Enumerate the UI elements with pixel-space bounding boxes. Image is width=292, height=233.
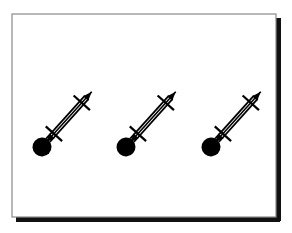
figure-root: Three identical pendulum-rod schematic s… [0, 0, 292, 233]
diagram-canvas [0, 0, 292, 233]
panel-drop-shadow-right [276, 18, 281, 221]
panel-drop-shadow-bottom [16, 217, 280, 222]
